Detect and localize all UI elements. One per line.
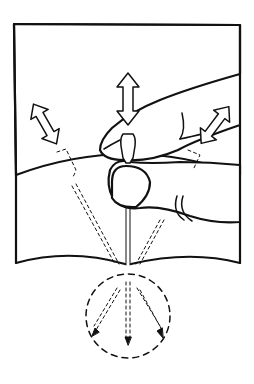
panel-bottom-edge-left <box>16 256 125 264</box>
panel-bottom-edge-right <box>131 257 240 264</box>
motion-arrow-center <box>125 282 131 345</box>
motion-arrow-left <box>92 288 120 336</box>
ghost-needle-left <box>57 149 119 264</box>
needle-head <box>121 134 136 163</box>
motion-arrow-right <box>137 288 163 338</box>
needle-movement-illustration <box>0 0 254 384</box>
